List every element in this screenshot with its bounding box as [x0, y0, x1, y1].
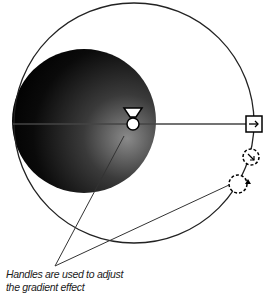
size-handle[interactable]: [243, 149, 259, 165]
rotation-handle[interactable]: [229, 175, 251, 193]
caption-line-1: Handles are used to adjust: [6, 268, 123, 281]
gradient-diagram: [0, 0, 267, 293]
width-handle[interactable]: [246, 116, 262, 132]
figure-caption: Handles are used to adjust the gradient …: [6, 268, 123, 293]
caption-line-2: the gradient effect: [6, 281, 123, 293]
